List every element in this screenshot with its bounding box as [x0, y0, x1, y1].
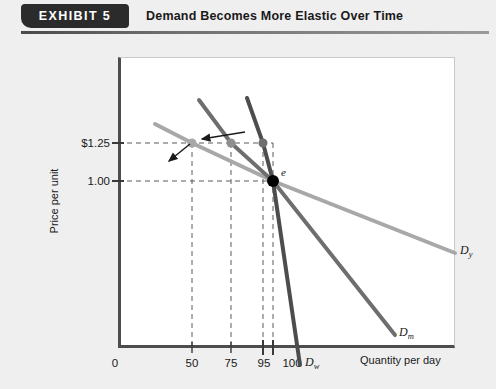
exhibit-badge: EXHIBIT 5: [21, 4, 129, 28]
curve-label-dw-letter: D: [305, 355, 314, 369]
point-dm-75: [227, 139, 236, 148]
equilibrium-label: e: [281, 166, 286, 178]
point-dy-50: [188, 139, 197, 148]
curve-label-dm: Dm: [399, 325, 414, 341]
x-axis-ticks: [192, 340, 273, 355]
exhibit-title: Demand Becomes More Elastic Over Time: [146, 9, 403, 23]
curve-label-dy-letter: D: [460, 243, 469, 257]
chart-figure: Price per unit Quantity per day $1.25 1.…: [0, 40, 496, 389]
exhibit-header: EXHIBIT 5 Demand Becomes More Elastic Ov…: [0, 0, 496, 40]
curve-label-dm-letter: D: [399, 325, 408, 339]
header-divider: [21, 31, 489, 34]
axis-ticks: [112, 143, 124, 181]
point-equilibrium: [267, 175, 279, 187]
dashed-guides: [118, 143, 273, 348]
curve-label-dw-sub: w: [314, 361, 320, 371]
point-dw-95: [259, 139, 268, 148]
curve-label-dy: Dy: [460, 243, 472, 259]
chart-svg: [0, 40, 496, 389]
curve-label-dm-sub: m: [408, 331, 414, 341]
annotation-arrow-2: [169, 144, 190, 161]
curve-label-dw: Dw: [305, 355, 319, 371]
curve-label-dy-sub: y: [469, 249, 473, 259]
